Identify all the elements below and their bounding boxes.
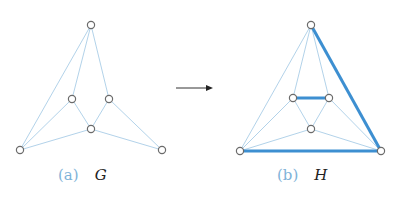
edge [72,99,91,129]
vertex-rm [105,95,112,102]
edge [91,99,109,129]
edge [293,98,311,129]
edge [311,25,329,98]
vertex-br [158,146,165,153]
caption-h: (b)H [277,166,327,184]
graph-name: H [314,166,327,184]
vertex-rm [325,94,332,101]
vertex-lm [68,95,75,102]
vertex-bl [236,147,243,154]
edge [293,25,311,98]
vertex-lm [289,94,296,101]
edge [72,25,91,99]
vertex-bl [16,146,23,153]
vertex-c [307,125,314,132]
vertex-c [87,125,94,132]
vertex-br [377,147,384,154]
arrow-icon [176,85,213,91]
caption-g: (a)G [58,166,107,184]
caption-label: (b) [277,166,298,184]
edge [20,25,91,150]
edge [311,98,329,129]
caption-label: (a) [58,166,79,184]
vertex-top [307,21,314,28]
graph-h-nodes [236,21,384,154]
graph-g-nodes [16,21,165,153]
vertex-top [87,21,94,28]
graph-name: G [95,166,107,184]
edge [91,25,109,99]
